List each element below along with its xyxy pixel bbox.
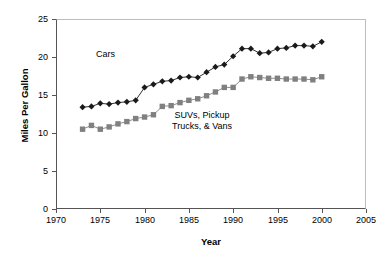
data-point — [195, 74, 201, 80]
data-point — [160, 104, 165, 109]
data-point — [79, 104, 85, 110]
data-point — [177, 100, 182, 105]
data-point — [284, 76, 289, 81]
data-point — [239, 76, 244, 81]
data-point — [195, 96, 200, 101]
data-point — [115, 121, 120, 126]
data-point — [292, 43, 298, 49]
data-point — [115, 100, 121, 106]
data-point — [213, 89, 218, 94]
data-point — [88, 103, 94, 109]
data-point — [203, 69, 209, 75]
data-point — [230, 85, 235, 90]
data-point — [106, 101, 112, 107]
data-point — [283, 45, 289, 51]
data-point — [168, 103, 173, 108]
data-point — [248, 74, 253, 79]
annotation-suv-line1: SUVs, Pickup — [172, 110, 232, 121]
chart-figure: 25 20 15 10 5 0 1970 1975 1980 1985 1990… — [0, 0, 379, 258]
data-point — [186, 74, 192, 80]
annotation-suv-trucks: SUVs, Pickup Trucks, & Vans — [172, 110, 232, 132]
data-point — [310, 77, 315, 82]
data-point — [186, 98, 191, 103]
data-point — [310, 43, 316, 49]
data-point — [151, 112, 156, 117]
data-point — [124, 119, 129, 124]
annotation-suv-line2: Trucks, & Vans — [172, 121, 232, 132]
data-point — [150, 81, 156, 87]
data-point — [319, 74, 324, 79]
data-point — [133, 97, 139, 103]
data-point — [212, 64, 218, 70]
data-point — [204, 93, 209, 98]
data-point — [265, 49, 271, 55]
data-point — [80, 127, 85, 132]
data-point — [275, 76, 280, 81]
data-point — [257, 75, 262, 80]
data-point — [257, 50, 263, 56]
data-point — [301, 43, 307, 49]
data-point — [301, 76, 306, 81]
data-point — [106, 124, 111, 129]
data-point — [89, 123, 94, 128]
data-point — [133, 116, 138, 121]
data-point — [159, 78, 165, 84]
data-point — [319, 39, 325, 45]
annotation-cars: Cars — [96, 49, 115, 60]
data-point — [222, 85, 227, 90]
data-point — [141, 84, 147, 90]
data-point — [266, 76, 271, 81]
data-point — [274, 46, 280, 52]
data-point — [248, 46, 254, 52]
data-point — [292, 76, 297, 81]
data-point — [177, 74, 183, 80]
data-point — [142, 114, 147, 119]
data-point — [124, 99, 130, 105]
data-point — [168, 77, 174, 83]
data-point — [97, 100, 103, 106]
data-point — [98, 127, 103, 132]
